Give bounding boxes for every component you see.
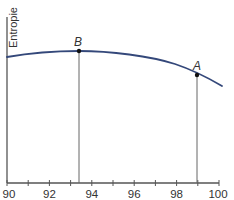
y-axis-title: Entropie <box>7 7 19 48</box>
entropy-curve <box>7 51 222 86</box>
entropy-chart: 90 92 94 96 98 100 Entropie B A <box>0 0 234 200</box>
tick-label-98: 98 <box>170 188 183 200</box>
point-label-a: A <box>192 59 201 73</box>
point-a <box>195 73 199 77</box>
tick-label-94: 94 <box>85 188 98 200</box>
point-label-b: B <box>74 35 82 49</box>
tick-label-100: 100 <box>208 188 227 200</box>
tick-label-96: 96 <box>128 188 141 200</box>
x-axis-tick-labels: 90 92 94 96 98 100 <box>3 188 228 200</box>
tick-label-90: 90 <box>3 188 16 200</box>
point-b <box>77 49 81 53</box>
tick-label-92: 92 <box>43 188 56 200</box>
